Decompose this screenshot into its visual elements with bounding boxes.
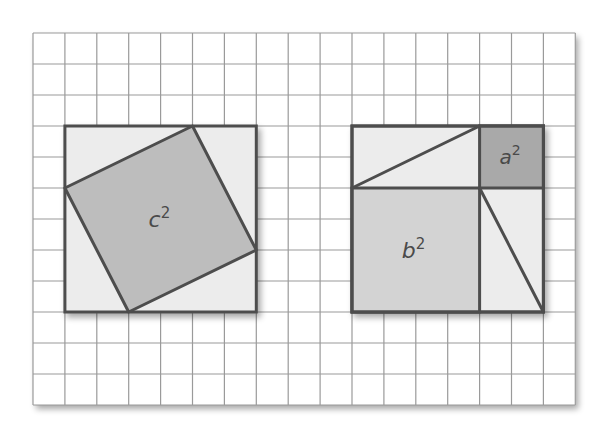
c-exponent: 2: [161, 204, 171, 222]
pythagorean-diagram: c2 a2 b2: [0, 0, 604, 441]
a-exponent: 2: [512, 142, 521, 158]
b-variable: b: [402, 238, 416, 263]
a-variable: a: [500, 145, 512, 169]
c-variable: c: [149, 207, 161, 232]
b-exponent: 2: [416, 235, 426, 253]
